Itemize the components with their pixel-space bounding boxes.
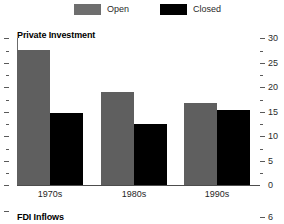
right-tick-major-30 — [260, 38, 265, 39]
y-axis-label-25: 25 — [268, 59, 278, 68]
y-axis-label-0: 0 — [268, 181, 273, 190]
bar-closed-1980s — [134, 124, 167, 185]
left-tick-major-10 — [4, 136, 9, 137]
left-tick-minor — [6, 51, 9, 52]
right-tick-major-fdi — [260, 217, 265, 218]
left-tick-major-15 — [4, 112, 9, 113]
left-tick-minor — [6, 75, 9, 76]
left-tick-minor — [6, 124, 9, 125]
legend-swatch-closed-icon — [160, 4, 187, 15]
chart-figure: Open Closed Private Investment 30 25 — [0, 0, 284, 224]
bar-open-1980s — [101, 92, 134, 185]
left-tick-major-25 — [4, 63, 9, 64]
chart-legend: Open Closed — [0, 0, 284, 26]
right-tick-major-20 — [260, 87, 265, 88]
right-tick-minor — [260, 100, 263, 101]
right-tick-minor — [260, 149, 263, 150]
bar-closed-1970s — [50, 113, 83, 185]
panel-fdi-inflows: FDI Inflows 6 — [0, 206, 284, 224]
legend-swatch-open-icon — [74, 4, 101, 15]
right-tick-major-25 — [260, 63, 265, 64]
right-tick-minor — [260, 173, 263, 174]
x-axis-category-1990s: 1990s — [184, 189, 250, 199]
y-axis-label-15: 15 — [268, 108, 278, 117]
right-tick-minor — [260, 75, 263, 76]
panel-title-fdi-inflows: FDI Inflows — [17, 212, 64, 222]
y-axis-label-5: 5 — [268, 157, 273, 166]
left-tick-major-30 — [4, 38, 9, 39]
panel-private-investment: Private Investment 30 25 20 15 10 — [0, 26, 284, 206]
right-tick-major-10 — [260, 136, 265, 137]
left-tick-minor — [6, 100, 9, 101]
bar-open-1990s — [184, 103, 217, 185]
x-axis-category-1970s: 1970s — [17, 189, 83, 199]
y-axis-label-30: 30 — [268, 34, 278, 43]
legend-label-open: Open — [107, 3, 129, 15]
left-tick-minor — [6, 173, 9, 174]
right-tick-major-15 — [260, 112, 265, 113]
right-tick-minor — [260, 51, 263, 52]
left-tick-minor — [6, 149, 9, 150]
legend-label-closed: Closed — [193, 3, 221, 15]
left-tick-major-20 — [4, 87, 9, 88]
left-tick-major-0 — [4, 185, 9, 186]
y-axis-label-20: 20 — [268, 83, 278, 92]
x-axis-baseline — [17, 185, 260, 186]
right-tick-major-5 — [260, 161, 265, 162]
y-axis-label-fdi-6: 6 — [268, 213, 273, 222]
bar-open-1970s — [17, 50, 50, 185]
right-tick-minor — [260, 124, 263, 125]
y-axis-label-10: 10 — [268, 132, 278, 141]
bar-closed-1990s — [217, 110, 250, 185]
left-tick-major-fdi — [4, 211, 9, 212]
x-axis-category-1980s: 1980s — [101, 189, 167, 199]
plot-area — [17, 38, 258, 185]
left-tick-major-5 — [4, 161, 9, 162]
